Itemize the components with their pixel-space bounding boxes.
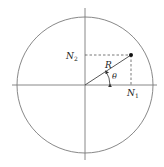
label-r: R xyxy=(104,60,112,70)
point-marker xyxy=(129,53,133,57)
label-n2: N2 xyxy=(65,51,78,62)
angle-arc xyxy=(106,72,110,86)
label-theta: θ xyxy=(112,72,117,81)
polar-coordinate-diagram: N2 R θ N1 xyxy=(0,0,164,167)
label-n1: N1 xyxy=(126,88,139,99)
